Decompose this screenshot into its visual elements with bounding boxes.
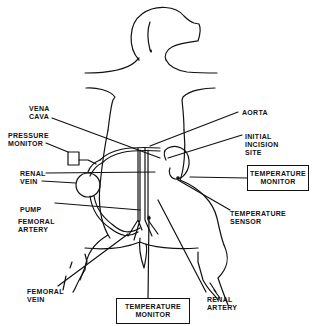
label-initial-incision-site: INITIAL INCISION SITE (245, 133, 279, 157)
dog-hip-left (73, 235, 108, 292)
leader-temperature-monitor-right (190, 177, 247, 178)
bottom-sensor-dot (147, 216, 151, 220)
temperature-monitor-bottom-line2: MONITOR (125, 311, 181, 319)
label-renal-vein: RENAL VEIN (20, 170, 46, 186)
dog-shoulder-right (166, 60, 217, 73)
dog-shoulder-left (85, 58, 139, 73)
pump-outline (76, 173, 100, 197)
leader-pump (42, 181, 76, 183)
label-renal-artery-line1: RENAL (207, 296, 237, 304)
label-aorta: AORTA (242, 109, 268, 117)
label-pressure-monitor-line1: PRESSURE (8, 132, 49, 140)
label-vena-cava-line1: VENA (29, 105, 50, 113)
temperature-sensor-dot (176, 176, 180, 180)
label-pump: PUMP (20, 206, 41, 214)
label-femoral-vein: FEMORAL VEIN (27, 288, 64, 304)
temperature-monitor-right-line1: TEMPERATURE (250, 170, 306, 178)
label-temperature-sensor: TEMPERATURE SENSOR (230, 210, 286, 226)
label-renal-artery-line2: ARTERY (207, 304, 237, 312)
pressure-monitor-box (68, 152, 79, 165)
label-vena-cava-line2: CAVA (29, 113, 50, 121)
label-initial-line2: INCISION (245, 141, 279, 149)
label-femoral-artery-line2: ARTERY (18, 226, 55, 234)
label-femoral-vein-line1: FEMORAL (27, 288, 64, 296)
leader-pressure-monitor (46, 143, 68, 152)
label-pressure-monitor-line2: MONITOR (8, 140, 49, 148)
dog-ear (148, 22, 151, 52)
label-femoral-vein-line2: VEIN (27, 296, 64, 304)
label-renal-artery: RENAL ARTERY (207, 296, 237, 312)
leader-renal-vein (46, 172, 155, 173)
temperature-monitor-right-box: TEMPERATURE MONITOR (247, 165, 309, 191)
label-femoral-artery: FEMORAL ARTERY (18, 218, 55, 234)
label-vena-cava: VENA CAVA (29, 105, 50, 121)
label-femoral-artery-line1: FEMORAL (18, 218, 55, 226)
leader-femoral-vein (58, 234, 128, 286)
vena-cava-vessel (128, 148, 142, 240)
aorta-vessel (145, 148, 158, 236)
label-temperature-sensor-line1: TEMPERATURE (230, 210, 286, 218)
leader-initial-incision (168, 135, 242, 158)
leader-temperature-sensor (178, 180, 230, 210)
label-initial-line1: INITIAL (245, 133, 279, 141)
temperature-monitor-right-line2: MONITOR (250, 178, 306, 186)
temperature-monitor-bottom-box: TEMPERATURE MONITOR (116, 298, 190, 324)
dog-head-outline (131, 7, 200, 60)
label-initial-line3: SITE (245, 149, 279, 157)
label-pressure-monitor: PRESSURE MONITOR (8, 132, 49, 148)
dog-front-leg-left (86, 88, 115, 130)
label-temperature-sensor-line2: SENSOR (230, 218, 286, 226)
leader-femoral-artery (55, 203, 140, 210)
dog-hind-leg-right (198, 252, 218, 300)
leader-renal-artery (158, 200, 206, 292)
label-renal-vein-line1: RENAL (20, 170, 46, 178)
kidney-outline (164, 147, 189, 180)
dog-anatomy-diagram (0, 0, 323, 326)
dog-front-leg-right (182, 88, 215, 130)
label-renal-vein-line2: VEIN (20, 178, 46, 186)
temperature-monitor-bottom-line1: TEMPERATURE (125, 303, 181, 311)
